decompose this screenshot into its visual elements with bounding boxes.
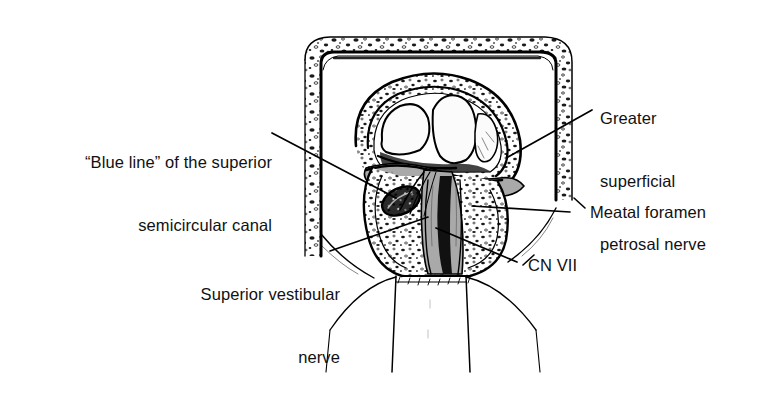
label-meatal-foramen: Meatal foramen — [590, 202, 765, 223]
label-gsp-line3: petrosal nerve — [600, 234, 765, 255]
label-superior-vestibular-nerve: Superior vestibular nerve — [140, 242, 340, 399]
leader-gsp — [508, 110, 592, 157]
figure-canvas: “Blue line” of the superior semicircular… — [0, 0, 767, 399]
label-gsp-line2: superficial — [600, 171, 765, 192]
label-gsp-line1: Greater — [600, 108, 765, 129]
label-svn-line1: Superior vestibular — [140, 284, 340, 305]
label-svn-line2: nerve — [140, 347, 340, 368]
brainstem-stalk — [326, 276, 540, 372]
label-blue-line-line2: semicircular canal — [24, 215, 272, 236]
label-blue-line-line1: “Blue line” of the superior — [24, 152, 272, 173]
label-cn-vii: CN VII — [528, 255, 638, 276]
